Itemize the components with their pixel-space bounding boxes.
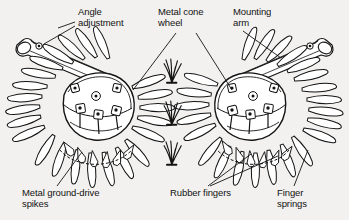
left-wheel-assembly <box>5 25 175 188</box>
right-cone-hub <box>215 73 286 140</box>
right-wheel-assembly <box>174 26 343 188</box>
left-angle-pivot <box>36 43 42 49</box>
label-rubber-fingers: Rubber fingers <box>170 188 231 199</box>
label-mounting-arm: Mounting arm <box>233 7 271 28</box>
grass-tufts <box>164 59 181 165</box>
label-finger-springs: Finger springs <box>277 188 307 209</box>
label-angle-adjustment: Angle adjustment <box>78 7 123 28</box>
right-angle-pivot <box>307 43 313 49</box>
label-metal-cone-wheel: Metal cone wheel <box>158 7 203 28</box>
diagram-figure: Angle adjustment Metal cone wheel Mounti… <box>0 0 349 220</box>
leader-rubber-left <box>208 154 251 186</box>
label-metal-ground-drive-spikes: Metal ground-drive spikes <box>22 188 99 209</box>
